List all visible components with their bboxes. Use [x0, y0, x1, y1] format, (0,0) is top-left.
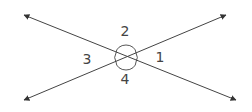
intersecting-lines-diagram: 1 2 3 4 [0, 0, 252, 112]
angle-label-3: 3 [83, 51, 92, 67]
angle-label-4: 4 [121, 71, 130, 87]
angle-label-2: 2 [121, 23, 130, 39]
angle-arc-1 [136, 53, 137, 62]
line-a [24, 15, 236, 100]
angle-arc-4 [116, 62, 136, 70]
angle-arc-2 [116, 45, 136, 53]
angle-label-1: 1 [156, 49, 165, 65]
angle-arc-3 [115, 53, 116, 62]
